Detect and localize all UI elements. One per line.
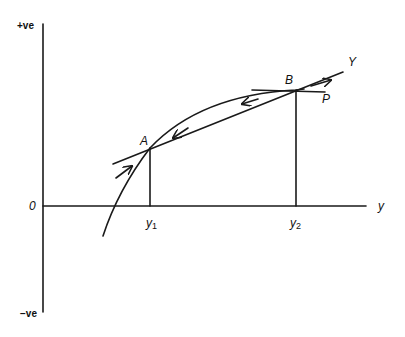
point-a-label: A (139, 134, 148, 148)
y-axis-positive-label: +ve (17, 20, 34, 31)
tick-y2-label: y2 (289, 216, 301, 231)
chord-y-label: Y (348, 55, 357, 69)
origin-label: 0 (29, 199, 36, 213)
tangent-p-label: P (322, 92, 330, 106)
arrow-icon (242, 99, 258, 104)
tick-y1-label: y1 (145, 216, 157, 231)
chord-line-y (113, 72, 343, 164)
x-axis-label: y (377, 199, 385, 213)
point-b-label: B (285, 73, 293, 87)
tangent-line-p (252, 90, 325, 92)
arrow-icon (116, 166, 132, 178)
concave-curve-chord-diagram: +ve 0 −ve y A B Y P y1 y2 (0, 0, 405, 337)
y-axis-negative-label: −ve (20, 308, 37, 319)
concave-curve (103, 89, 304, 236)
